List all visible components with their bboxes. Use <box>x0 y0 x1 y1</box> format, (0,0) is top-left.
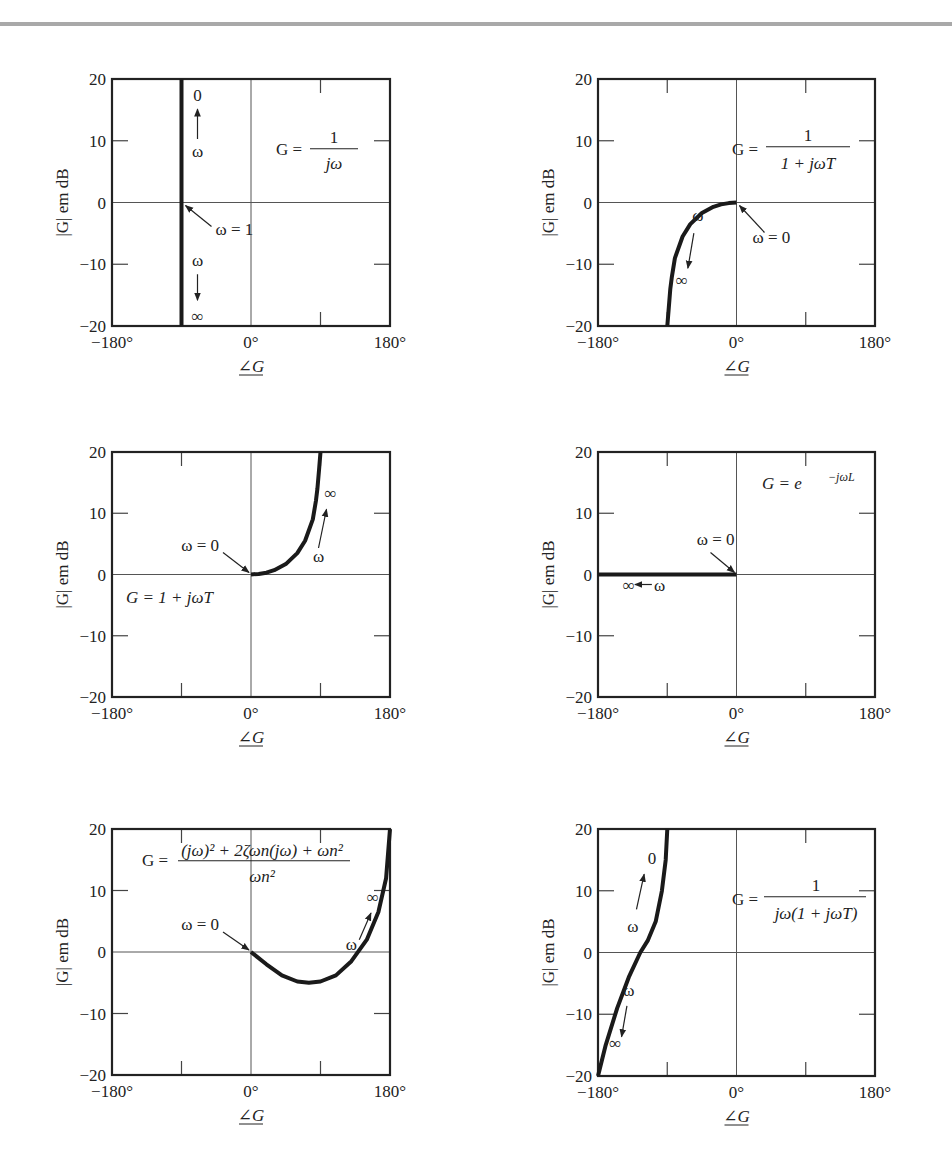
infinity-label: ∞ <box>623 576 635 595</box>
formula-exponent: −jωL <box>828 470 855 484</box>
y-axis-label: |G| em dB <box>53 540 72 608</box>
formula-denominator: 1 + jωT <box>781 154 837 173</box>
y-tick-label: 20 <box>89 70 106 89</box>
x-axis-label: ∠G <box>238 1106 265 1125</box>
infinity-label: ∞ <box>191 307 203 326</box>
x-tick-label: −180° <box>577 333 619 352</box>
omega-label: ω <box>346 935 357 954</box>
y-axis-label: |G| em dB <box>53 168 72 236</box>
x-tick-label: 180° <box>859 704 891 723</box>
y-tick-label: −10 <box>565 1005 592 1024</box>
y-tick-label: 20 <box>89 443 106 462</box>
y-tick-label: 0 <box>98 943 107 962</box>
y-tick-label: 10 <box>575 504 592 523</box>
y-tick-label: 20 <box>89 820 106 839</box>
x-tick-label: 180° <box>374 333 406 352</box>
y-axis-label: |G| em dB <box>539 918 558 986</box>
x-tick-label: 0° <box>243 704 258 723</box>
x-tick-label: −180° <box>91 1082 133 1101</box>
x-axis-label: ∠G <box>238 728 265 747</box>
y-tick-label: −10 <box>79 1005 106 1024</box>
omega-label: ω <box>654 576 665 595</box>
polar-plot-2: 20100−10−20−180°0°180°∠G|G| em dBω = 0ω∞… <box>539 70 891 376</box>
y-tick-label: 10 <box>89 132 106 151</box>
omega-equals-one-label: ω = 1 <box>216 220 254 239</box>
polar-plot-1: 20100−10−20−180°0°180°∠G|G| em dB0ωω = 1… <box>53 70 406 376</box>
formula-lhs: G = <box>142 851 168 870</box>
omega-down-arrow <box>622 1006 627 1037</box>
omega-zero-arrow <box>223 553 249 573</box>
omega-label: ω <box>692 206 703 225</box>
y-tick-label: −10 <box>565 627 592 646</box>
omega-label: ω <box>192 142 203 161</box>
y-tick-label: 20 <box>575 820 592 839</box>
omega-zero-label: 0 <box>193 86 202 105</box>
formula-numerator: 1 <box>804 126 813 145</box>
x-tick-label: 180° <box>374 1082 406 1101</box>
y-tick-label: 0 <box>584 194 593 213</box>
omega-equals-zero-label: ω = 0 <box>753 228 791 247</box>
formula-numerator: (jω)² + 2ζωn(jω) + ωn² <box>181 841 344 860</box>
polar-plot-4: 20100−10−20−180°0°180°∠G|G| em dBω = 0∞ω… <box>539 443 891 747</box>
infinity-label: ∞ <box>367 888 379 907</box>
omega-label: ω <box>313 547 324 566</box>
formula-lhs: G = <box>276 140 302 159</box>
y-axis-label: |G| em dB <box>539 168 558 236</box>
formula-denominator: jω <box>324 154 343 173</box>
y-tick-label: 0 <box>584 944 593 963</box>
omega-label: ω <box>627 917 638 936</box>
omega-equals-zero-label: ω = 0 <box>181 536 219 555</box>
omega-up-arrow <box>319 509 327 548</box>
omega-zero-label: 0 <box>648 849 657 868</box>
formula-lhs: G = <box>732 140 758 159</box>
omega-equals-zero-label: ω = 0 <box>181 915 219 934</box>
polar-plot-6: 20100−10−20−180°0°180°∠G|G| em dB0ωω∞G =… <box>539 820 891 1126</box>
x-tick-label: −180° <box>91 333 133 352</box>
formula: G = 1 + jωT <box>126 588 214 607</box>
x-axis-label: ∠G <box>723 357 750 376</box>
omega-up-arrow <box>636 874 644 909</box>
omega-equals-zero-label: ω = 0 <box>697 530 735 549</box>
y-tick-label: 0 <box>584 566 593 585</box>
omega-zero-arrow <box>711 553 735 573</box>
x-tick-label: −180° <box>91 704 133 723</box>
x-tick-label: −180° <box>577 1083 619 1102</box>
polar-plot-5: 20100−10−20−180°0°180°∠G|G| em dBω = 0ω∞… <box>53 820 406 1125</box>
omega-label: ω <box>192 251 203 270</box>
infinity-label: ∞ <box>324 484 336 503</box>
x-tick-label: 180° <box>859 333 891 352</box>
x-tick-label: 0° <box>729 333 744 352</box>
y-axis-label: |G| em dB <box>53 918 72 986</box>
omega-zero-arrow <box>223 932 249 950</box>
x-axis-label: ∠G <box>723 728 750 747</box>
y-tick-label: 10 <box>89 504 106 523</box>
formula-numerator: 1 <box>812 876 821 895</box>
formula-numerator: 1 <box>330 128 339 147</box>
x-tick-label: −180° <box>577 704 619 723</box>
omega-one-arrow <box>186 206 212 227</box>
x-tick-label: 0° <box>729 1083 744 1102</box>
x-tick-label: 0° <box>729 704 744 723</box>
locus-curve <box>251 452 321 575</box>
x-axis-label: ∠G <box>723 1107 750 1126</box>
y-tick-label: −10 <box>565 255 592 274</box>
x-tick-label: 180° <box>859 1083 891 1102</box>
y-axis-label: |G| em dB <box>539 540 558 608</box>
y-tick-label: 0 <box>98 566 107 585</box>
formula-lhs: G = <box>732 890 758 909</box>
infinity-label: ∞ <box>676 271 688 290</box>
y-tick-label: 0 <box>98 194 107 213</box>
infinity-label: ∞ <box>609 1034 621 1053</box>
x-axis-label: ∠G <box>238 357 265 376</box>
omega-label: ω <box>623 981 634 1000</box>
y-tick-label: −10 <box>79 627 106 646</box>
polar-plot-3: 20100−10−20−180°0°180°∠G|G| em dBω = 0ω∞… <box>53 443 406 747</box>
formula-denominator: ωn² <box>249 867 276 886</box>
y-tick-label: 10 <box>575 132 592 151</box>
formula-denominator: jω(1 + jωT) <box>773 904 858 923</box>
polar-plots-figure: 20100−10−20−180°0°180°∠G|G| em dB0ωω = 1… <box>0 0 952 1173</box>
y-tick-label: 20 <box>575 70 592 89</box>
y-tick-label: 10 <box>575 882 592 901</box>
omega-down-arrow <box>688 233 694 268</box>
formula-base: G = e <box>762 474 802 493</box>
